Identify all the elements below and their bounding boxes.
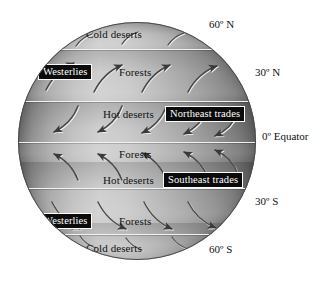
globe-sphere: Cold deserts Forests Hot deserts Forests…	[18, 22, 256, 260]
zone-label-forests-equator: Forests	[119, 148, 151, 160]
zone-label-hot-deserts-north: Hot deserts	[103, 108, 154, 120]
latitude-label-30n: 30º N	[255, 66, 280, 78]
latitude-label-equator: 0º Equator	[262, 130, 308, 142]
wind-label-northeast-trades: Northeast trades	[165, 106, 245, 122]
latitude-line-30s	[18, 188, 256, 189]
latitude-line-equator	[18, 142, 256, 143]
latitude-line-60s	[18, 234, 256, 235]
globe-container: Cold deserts Forests Hot deserts Forests…	[18, 22, 256, 260]
zone-label-forests-south: Forests	[119, 215, 151, 227]
wind-label-westerlies-north: Westerlies	[38, 64, 92, 80]
latitude-label-60n: 60º N	[209, 18, 234, 30]
zone-label-cold-deserts-south: Cold deserts	[86, 242, 142, 254]
wind-belt-diagram: Cold deserts Forests Hot deserts Forests…	[0, 0, 334, 283]
latitude-line-60n	[18, 49, 256, 50]
wind-label-westerlies-south: Westerlies	[38, 213, 92, 229]
latitude-line-30n	[18, 101, 256, 102]
zone-label-cold-deserts-north: Cold deserts	[86, 28, 142, 40]
latitude-label-30s: 30º S	[255, 195, 278, 207]
zone-label-forests-north: Forests	[119, 66, 151, 78]
zone-label-hot-deserts-south: Hot deserts	[103, 174, 154, 186]
latitude-label-60s: 60º S	[209, 243, 232, 255]
wind-label-southeast-trades: Southeast trades	[163, 172, 243, 188]
